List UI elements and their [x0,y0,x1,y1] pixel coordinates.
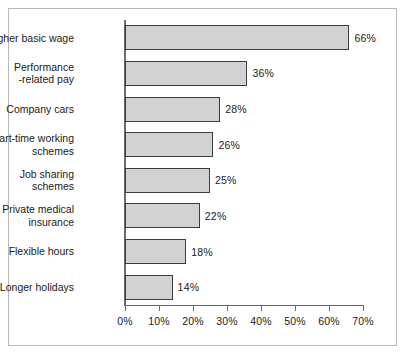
x-axis-tick [261,306,262,311]
x-axis-tick [125,306,126,311]
bar-row: Higher basic wage66% [125,25,363,50]
x-axis-tick-label: 40% [250,315,272,327]
bar-value-label: 26% [218,139,240,151]
bar-value-label: 36% [252,67,274,79]
category-label: Higher basic wage [0,32,74,45]
bar[interactable] [125,132,213,157]
category-label: Part-time working schemes [0,132,74,157]
x-axis-tick-label: 20% [182,315,204,327]
bar[interactable] [125,25,349,50]
bar-value-label: 18% [191,246,213,258]
bar-value-label: 66% [354,32,376,44]
bar[interactable] [125,61,247,86]
x-axis-tick [329,306,330,311]
category-label: Job sharing schemes [0,168,74,193]
category-label: Company cars [0,103,74,116]
x-axis-tick-label: 10% [148,315,170,327]
x-axis-tick [227,306,228,311]
bar-row: Performance -related pay36% [125,61,363,86]
x-axis-tick-label: 0% [117,315,133,327]
x-axis-tick-label: 60% [318,315,340,327]
x-axis-tick [193,306,194,311]
bar[interactable] [125,203,200,228]
bar-row: Private medical insurance22% [125,203,363,228]
bar-row: Company cars28% [125,97,363,122]
x-axis-tick [159,306,160,311]
bar[interactable] [125,97,220,122]
category-label: Flexible hours [0,245,74,258]
category-label: Private medical insurance [0,203,74,228]
plot-area: Higher basic wage66%Performance -related… [125,20,363,305]
bar-row: Job sharing schemes25% [125,168,363,193]
bar-value-label: 25% [215,174,237,186]
bar-value-label: 14% [178,281,200,293]
x-axis-tick [295,306,296,311]
bar[interactable] [125,239,186,264]
x-axis-tick-label: 30% [216,315,238,327]
x-axis-tick-label: 70% [352,315,374,327]
bar-chart-figure: 0%10%20%30%40%50%60%70% Higher basic wag… [0,0,407,357]
category-label: Performance -related pay [0,61,74,86]
bar-row: Longer holidays14% [125,275,363,300]
x-axis-tick [363,306,364,311]
bar[interactable] [125,168,210,193]
bar-value-label: 28% [225,103,247,115]
x-axis-tick-label: 50% [284,315,306,327]
category-label: Longer holidays [0,281,74,294]
bar[interactable] [125,275,173,300]
bar-row: Part-time working schemes26% [125,132,363,157]
bar-row: Flexible hours18% [125,239,363,264]
bar-value-label: 22% [205,210,227,222]
